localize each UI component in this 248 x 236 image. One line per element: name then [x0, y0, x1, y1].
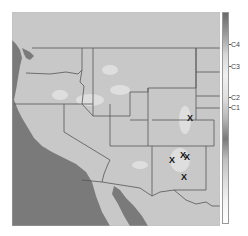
marker-x: X: [187, 113, 193, 123]
colorbar: [222, 12, 229, 224]
marker-x: X: [184, 152, 190, 162]
colorbar-label: C4: [231, 41, 240, 48]
marker-x: X: [169, 155, 175, 165]
map-canvas: XXXXX: [12, 12, 220, 226]
colorbar-label: C1: [231, 104, 240, 111]
colorbar-label: C2: [231, 94, 240, 101]
marker-x: X: [181, 172, 187, 182]
colorbar-label: C3: [231, 63, 240, 70]
